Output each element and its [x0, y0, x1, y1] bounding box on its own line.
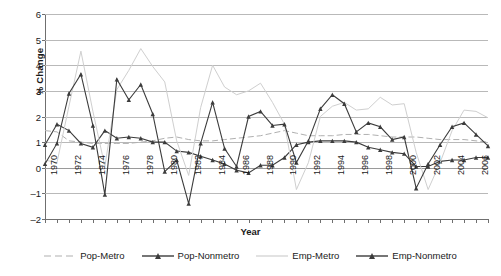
series-lines — [45, 14, 488, 219]
x-axis-title: Year — [0, 226, 501, 237]
data-point-marker — [115, 77, 119, 81]
x-tick-mark — [213, 219, 214, 223]
x-tick-mark — [45, 219, 46, 223]
x-tick-label: 1970 — [49, 155, 59, 175]
data-point-marker — [151, 112, 155, 116]
legend-key-icon — [142, 251, 174, 261]
x-tick-label: 1972 — [73, 155, 83, 175]
data-point-marker — [103, 192, 107, 196]
x-tick-label: 1988 — [265, 155, 275, 175]
x-tick-mark — [464, 219, 465, 223]
x-tick-mark — [416, 219, 417, 223]
x-tick-mark — [201, 219, 202, 223]
x-tick-label: 1992 — [312, 155, 322, 175]
x-tick-mark — [440, 219, 441, 223]
x-tick-label: 1990 — [288, 155, 298, 175]
x-tick-mark — [105, 219, 106, 223]
data-point-marker — [55, 141, 59, 145]
data-point-marker — [79, 72, 83, 76]
plot-area: –2–10123456 — [45, 14, 488, 219]
data-point-marker — [306, 139, 310, 143]
x-tick-mark — [189, 219, 190, 223]
x-tick-label: 1984 — [217, 155, 227, 175]
x-tick-mark — [93, 219, 94, 223]
x-tick-label: 2002 — [432, 155, 442, 175]
data-point-marker — [43, 162, 47, 166]
data-point-marker — [414, 186, 418, 190]
data-point-marker — [67, 128, 71, 132]
legend-item[interactable]: Emp-Nonmetro — [356, 250, 456, 261]
x-tick-label: 1982 — [193, 155, 203, 175]
x-tick-mark — [428, 219, 429, 223]
x-tick-mark — [249, 219, 250, 223]
x-tick-label: 1996 — [360, 155, 370, 175]
x-tick-label: 1998 — [384, 155, 394, 175]
x-tick-mark — [81, 219, 82, 223]
y-tick-label: 5 — [36, 34, 41, 45]
data-point-marker — [258, 109, 262, 113]
x-tick-mark — [332, 219, 333, 223]
x-tick-mark — [165, 219, 166, 223]
x-tick-label: 1980 — [169, 155, 179, 175]
y-tick-label: 6 — [36, 9, 41, 20]
legend-key-icon — [44, 251, 76, 261]
x-tick-label: 1986 — [241, 155, 251, 175]
x-tick-label: 1976 — [121, 155, 131, 175]
x-tick-mark — [272, 219, 273, 223]
x-tick-mark — [237, 219, 238, 223]
gridline — [45, 219, 488, 220]
legend-label: Pop-Metro — [80, 250, 124, 261]
chart-legend: Pop-MetroPop-NonmetroEmp-MetroEmp-Nonmet… — [0, 250, 501, 261]
x-tick-mark — [296, 219, 297, 223]
x-tick-mark — [284, 219, 285, 223]
x-tick-mark — [368, 219, 369, 223]
x-tick-label: 2004 — [456, 155, 466, 175]
x-tick-mark — [488, 219, 489, 223]
legend-key-icon — [356, 251, 388, 261]
x-tick-mark — [261, 219, 262, 223]
y-tick-label: 1 — [36, 137, 41, 148]
legend-item[interactable]: Pop-Nonmetro — [142, 250, 240, 261]
legend-label: Emp-Metro — [292, 250, 339, 261]
y-tick-label: 3 — [36, 85, 41, 96]
x-tick-mark — [356, 219, 357, 223]
y-tick-label: 0 — [36, 162, 41, 173]
x-tick-label: 2000 — [408, 155, 418, 175]
data-point-marker — [246, 114, 250, 118]
x-tick-mark — [57, 219, 58, 223]
data-point-marker — [198, 141, 202, 145]
x-tick-mark — [308, 219, 309, 223]
legend-item[interactable]: Pop-Metro — [44, 250, 124, 261]
chart-figure: % Change –2–10123456 1970197219741976197… — [0, 0, 501, 276]
x-tick-mark — [344, 219, 345, 223]
y-tick-label: 4 — [36, 60, 41, 71]
legend-label: Emp-Nonmetro — [392, 250, 456, 261]
x-tick-label: 1974 — [97, 155, 107, 175]
data-point-marker — [330, 93, 334, 97]
x-tick-mark — [177, 219, 178, 223]
x-tick-label: 1994 — [336, 155, 346, 175]
data-point-marker — [186, 201, 190, 205]
legend-key-icon — [256, 251, 288, 261]
x-tick-label: 1978 — [145, 155, 155, 175]
x-tick-mark — [153, 219, 154, 223]
x-tick-mark — [404, 219, 405, 223]
x-tick-mark — [225, 219, 226, 223]
x-tick-mark — [117, 219, 118, 223]
x-tick-mark — [380, 219, 381, 223]
x-tick-label: 2006 — [480, 155, 490, 175]
x-tick-mark — [129, 219, 130, 223]
legend-item[interactable]: Emp-Metro — [256, 250, 339, 261]
x-tick-mark — [141, 219, 142, 223]
data-point-marker — [103, 128, 107, 132]
y-tick-label: –2 — [30, 214, 41, 225]
data-point-marker — [43, 142, 47, 146]
data-point-marker — [210, 100, 214, 104]
x-tick-mark — [476, 219, 477, 223]
legend-label: Pop-Nonmetro — [178, 250, 240, 261]
x-tick-mark — [320, 219, 321, 223]
data-point-marker — [222, 146, 226, 150]
y-tick-label: –1 — [30, 188, 41, 199]
x-tick-mark — [392, 219, 393, 223]
data-point-marker — [91, 123, 95, 127]
